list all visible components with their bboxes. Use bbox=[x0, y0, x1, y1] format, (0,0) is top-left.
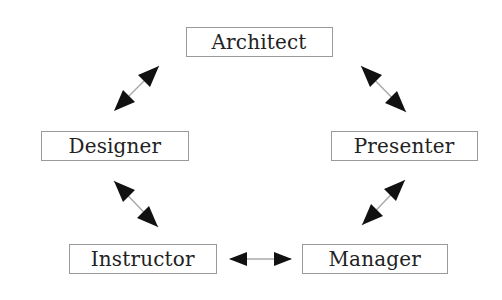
arrow-presenter-manager bbox=[362, 180, 405, 225]
node-label-architect: Architect bbox=[212, 32, 307, 53]
arrow-designer-instructor bbox=[114, 181, 158, 227]
arrow-designer-architect bbox=[114, 66, 159, 111]
role-cycle-diagram: Architect Designer Presenter Instructor … bbox=[0, 0, 502, 300]
node-manager: Manager bbox=[302, 244, 448, 274]
node-label-designer: Designer bbox=[69, 136, 162, 157]
node-instructor: Instructor bbox=[69, 244, 217, 274]
node-presenter: Presenter bbox=[331, 131, 478, 161]
node-label-manager: Manager bbox=[329, 249, 422, 270]
node-label-instructor: Instructor bbox=[91, 249, 195, 270]
node-designer: Designer bbox=[41, 131, 189, 161]
arrow-instructor-manager bbox=[229, 252, 292, 266]
node-architect: Architect bbox=[186, 27, 333, 57]
node-label-presenter: Presenter bbox=[354, 136, 455, 157]
arrow-architect-presenter bbox=[361, 66, 406, 112]
